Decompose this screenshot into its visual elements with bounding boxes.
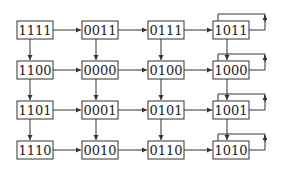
- node-1101: 1101: [17, 101, 53, 119]
- node-1001: 1001: [213, 101, 249, 119]
- node-0110: 0110: [148, 141, 184, 159]
- horizontal-edges: [53, 30, 212, 150]
- node-1011: 1011: [213, 21, 249, 39]
- node-label: 1111: [18, 23, 51, 38]
- node-label: 1011: [214, 23, 247, 38]
- node-label: 0100: [149, 63, 182, 78]
- node-label: 0110: [149, 143, 182, 158]
- node-label: 1010: [214, 143, 247, 158]
- node-label: 0101: [149, 103, 182, 118]
- node-label: 1100: [18, 63, 51, 78]
- node-label: 1110: [18, 143, 51, 158]
- node-1110: 1110: [17, 141, 53, 159]
- node-0000: 0000: [82, 61, 118, 79]
- node-1100: 1100: [17, 61, 53, 79]
- node-1000: 1000: [213, 61, 249, 79]
- node-1010: 1010: [213, 141, 249, 159]
- node-label: 1000: [214, 63, 247, 78]
- node-label: 0010: [83, 143, 116, 158]
- node-label: 1001: [214, 103, 247, 118]
- node-label: 1101: [18, 103, 51, 118]
- node-0010: 0010: [82, 141, 118, 159]
- node-label: 0000: [83, 63, 116, 78]
- node-label: 0001: [83, 103, 116, 118]
- vertical-edges: [30, 39, 227, 140]
- node-0011: 0011: [82, 21, 118, 39]
- node-0101: 0101: [148, 101, 184, 119]
- node-0001: 0001: [82, 101, 118, 119]
- node-0111: 0111: [148, 21, 184, 39]
- node-label: 0111: [149, 23, 182, 38]
- state-grid-diagram: 1111 0011 0111 1011 1100 0000 0100 1000 …: [0, 0, 283, 173]
- node-0100: 0100: [148, 61, 184, 79]
- node-1111: 1111: [17, 21, 53, 39]
- node-label: 0011: [83, 23, 116, 38]
